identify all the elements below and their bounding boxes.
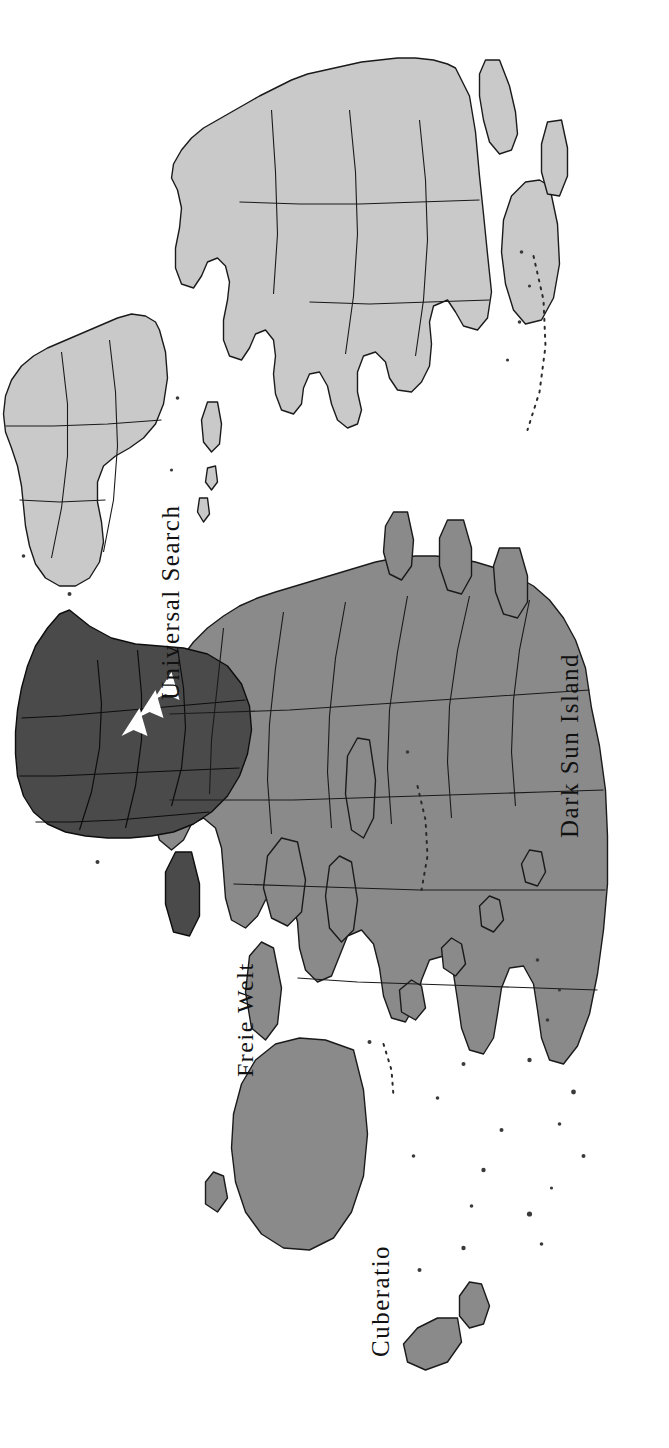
region-indonesia-2 (325, 856, 357, 942)
map-canvas: Universal Search Dark Sun Island Freie W… (0, 0, 669, 1448)
map-label-freie-welt: Freie Welt (232, 962, 259, 1077)
region-canadian-islands (541, 120, 567, 196)
map-label-cuberatio: Cuberatio (367, 1245, 395, 1357)
map-label-universal-search: Universal Search (157, 505, 185, 700)
map-label-dark-sun-island: Dark Sun Island (556, 653, 584, 838)
